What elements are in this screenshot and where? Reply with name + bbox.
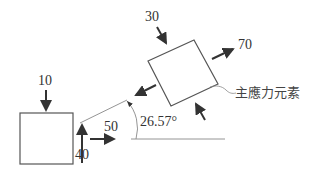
- sigma-min-label: 30: [145, 10, 159, 24]
- sigma-max-label: 70: [238, 38, 252, 52]
- angle-label: 26.57°: [140, 115, 177, 129]
- sigma-max-arrow-right-icon: [212, 49, 233, 59]
- tau-label: 40: [75, 148, 89, 162]
- sigma-min-arrow-bottom-icon: [196, 104, 205, 120]
- angle-arc: [127, 101, 138, 139]
- principal-element-caption: 主應力元素: [235, 86, 300, 99]
- sigma-min-arrow-top-icon: [157, 27, 166, 43]
- original-element-square: [20, 113, 73, 164]
- sigma-y-label: 10: [38, 74, 52, 88]
- principal-element-square: [148, 40, 218, 106]
- caption-leader: [210, 86, 236, 93]
- sigma-x-label: 50: [104, 120, 118, 134]
- sigma-max-arrow-left-icon: [136, 85, 156, 95]
